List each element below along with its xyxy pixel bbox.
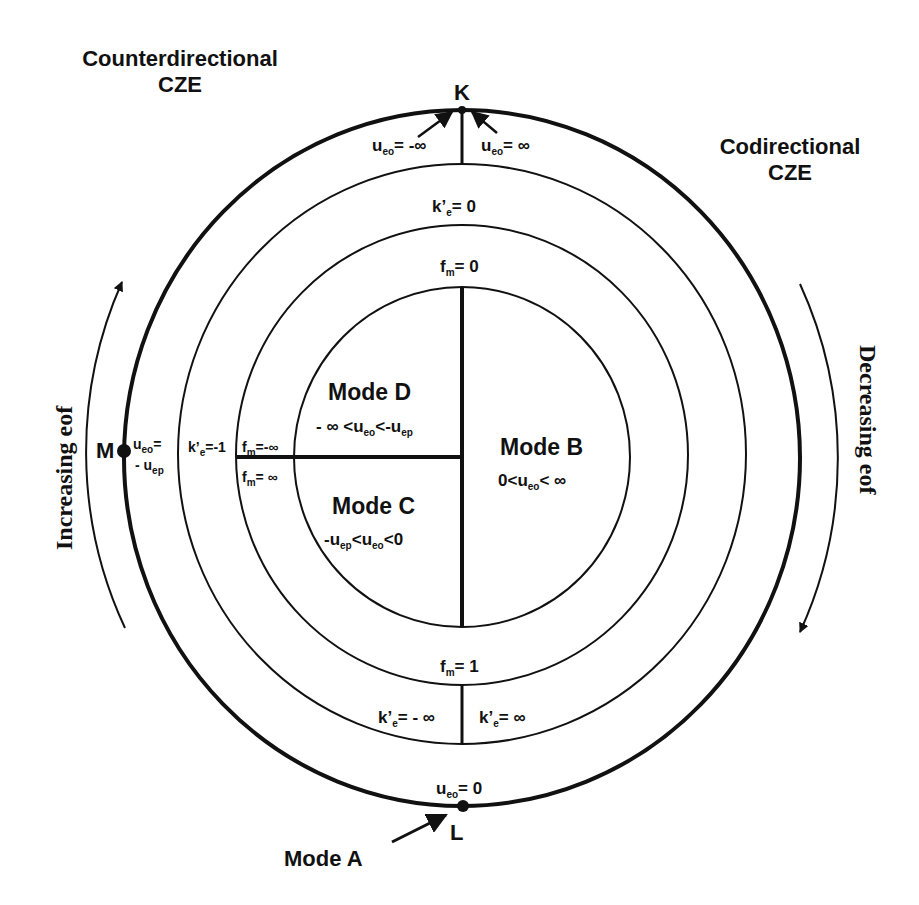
label-f-m-inf: fm= ∞ xyxy=(242,470,278,488)
label-k-e-zero: k’e= 0 xyxy=(432,198,476,218)
mode-b-title: Mode B xyxy=(500,436,583,459)
label-u-eo-equals: ueo= xyxy=(133,437,161,455)
point-m-dot xyxy=(117,444,131,458)
label-point-l: L xyxy=(450,822,463,844)
label-minus-u-ep: - uep xyxy=(135,458,164,476)
mode-c-condition: -uep<ueo<0 xyxy=(324,531,403,551)
label-u-eo-neg-inf: ueo= -∞ xyxy=(372,137,427,157)
label-u-eo-zero: ueo= 0 xyxy=(436,780,482,800)
label-u-eo-inf: ueo= ∞ xyxy=(481,137,530,157)
label-f-m-one: fm= 1 xyxy=(440,658,479,678)
arrow-decreasing-eof xyxy=(800,284,838,632)
label-f-m-zero: fm= 0 xyxy=(440,258,479,278)
title-codirectional-line2: CZE xyxy=(690,162,890,184)
label-point-m: M xyxy=(96,440,114,462)
label-f-m-neg-inf: fm=-∞ xyxy=(242,440,278,458)
title-codirectional-cze: Codirectional CZE xyxy=(690,136,890,184)
title-counterdirectional-line1: Counterdirectional xyxy=(50,48,310,70)
mode-d-condition: - ∞ <ueo<-uep xyxy=(316,418,413,438)
label-point-k: K xyxy=(454,82,470,104)
arrow-k-left xyxy=(418,112,452,137)
title-counterdirectional-cze: Counterdirectional CZE xyxy=(50,48,310,96)
point-l-dot xyxy=(457,800,469,812)
label-k-e-inf: k’e= ∞ xyxy=(479,709,526,729)
label-decreasing-eof: Decreasing eof xyxy=(856,345,880,495)
label-k-e-minus-one: k’e=-1 xyxy=(188,440,226,458)
arrow-k-right xyxy=(472,112,497,133)
point-k-dot xyxy=(458,106,466,114)
mode-c-title: Mode C xyxy=(332,495,415,518)
mode-b-condition: 0<ueo< ∞ xyxy=(498,472,566,492)
mode-d-title: Mode D xyxy=(328,381,411,404)
title-codirectional-line1: Codirectional xyxy=(690,136,890,158)
title-counterdirectional-line2: CZE xyxy=(50,74,310,96)
label-increasing-eof: Increasing eof xyxy=(52,406,76,550)
label-mode-a: Mode A xyxy=(284,848,363,870)
arrow-mode-a xyxy=(392,815,446,842)
label-k-e-neg-inf: k’e= - ∞ xyxy=(378,709,435,729)
